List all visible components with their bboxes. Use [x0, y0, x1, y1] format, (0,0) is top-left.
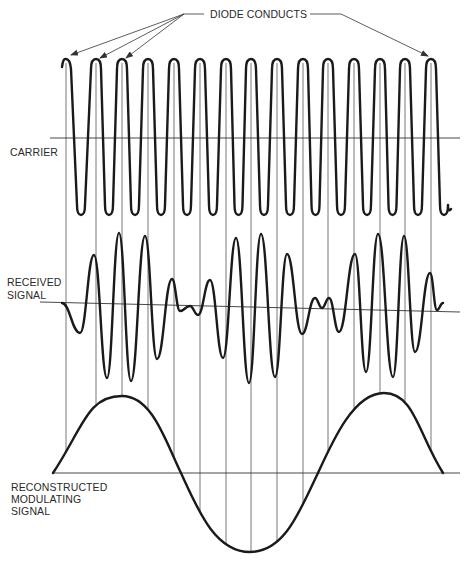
- received-baseline: [40, 302, 460, 312]
- reconstructed-waveform: [53, 393, 443, 552]
- carrier-label: CARRIER: [10, 146, 58, 158]
- arrow-line: [126, 14, 184, 58]
- arrow-line: [100, 14, 184, 58]
- arrow-line: [71, 14, 184, 55]
- diode-conducts-label: DIODE CONDUCTS: [210, 8, 307, 20]
- arrow-line: [310, 14, 428, 56]
- sampling-lines: [66, 63, 431, 552]
- carrier-waveform: [62, 59, 451, 215]
- received-waveform: [62, 233, 443, 383]
- reconstructed-signal-label: RECONSTRUCTED MODULATING SIGNAL: [11, 481, 107, 517]
- received-signal-label: RECEIVED SIGNAL: [7, 276, 61, 302]
- am-detection-diagram: [0, 0, 469, 563]
- diode-conducts-leaders: [71, 14, 428, 58]
